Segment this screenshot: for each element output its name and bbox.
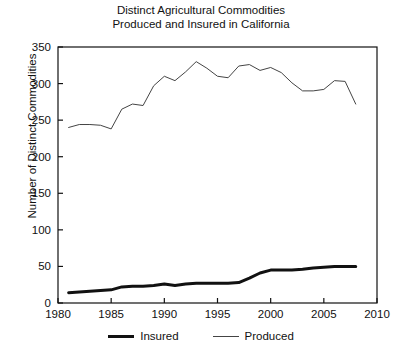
svg-text:1995: 1995 bbox=[205, 308, 231, 320]
svg-text:0: 0 bbox=[45, 297, 51, 309]
x-tick-labels: 1980198519901995200020052010 bbox=[45, 308, 390, 320]
svg-text:100: 100 bbox=[32, 224, 51, 236]
legend-swatch-produced bbox=[213, 336, 239, 337]
svg-text:250: 250 bbox=[32, 114, 51, 126]
chart-figure: Distinct Agricultural Commodities Produc… bbox=[0, 0, 402, 352]
legend-swatch-insured bbox=[108, 335, 134, 338]
svg-text:300: 300 bbox=[32, 78, 51, 90]
plot-area: 1980198519901995200020052010 05010015020… bbox=[0, 0, 402, 352]
legend-item-produced: Produced bbox=[213, 330, 294, 342]
svg-text:1990: 1990 bbox=[152, 308, 178, 320]
svg-text:350: 350 bbox=[32, 41, 51, 53]
legend-label-insured: Insured bbox=[140, 330, 178, 342]
svg-text:200: 200 bbox=[32, 151, 51, 163]
svg-text:1980: 1980 bbox=[45, 308, 71, 320]
svg-text:50: 50 bbox=[38, 260, 51, 272]
svg-text:2010: 2010 bbox=[364, 308, 390, 320]
svg-text:2005: 2005 bbox=[311, 308, 337, 320]
svg-text:2000: 2000 bbox=[258, 308, 284, 320]
legend-item-insured: Insured bbox=[108, 330, 178, 342]
svg-text:1985: 1985 bbox=[98, 308, 124, 320]
svg-text:150: 150 bbox=[32, 187, 51, 199]
y-tick-labels: 050100150200250300350 bbox=[32, 41, 51, 309]
legend-label-produced: Produced bbox=[245, 330, 294, 342]
data-series bbox=[69, 62, 356, 293]
chart-legend: Insured Produced bbox=[0, 330, 402, 342]
